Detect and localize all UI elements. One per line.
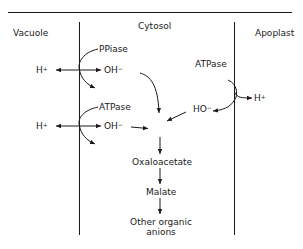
- oh2-to-center-arrow: [131, 127, 148, 129]
- h-ion-vacuole-1: H+: [36, 65, 48, 75]
- cytosol-label: Cytosol: [138, 21, 171, 31]
- atpase-plasma-label: ATPase: [195, 59, 227, 69]
- oh-ion-cytosol-2: OH−: [104, 121, 123, 131]
- ho-ion-cytosol: HO−: [193, 104, 212, 114]
- ppiase-pump-arrow: [79, 49, 98, 88]
- malate-label: Malate: [146, 187, 176, 197]
- h-ion-vacuole-2: H+: [36, 121, 48, 131]
- vacuole-label: Vacuole: [13, 28, 48, 38]
- oh1-to-center-arrow: [140, 73, 159, 113]
- ho-to-center-arrow: [167, 112, 186, 121]
- oxaloacetate-label: Oxaloacetate: [132, 157, 192, 167]
- atpase-plasma-pump-arrow-1: [213, 80, 237, 111]
- apoplast-label: Apoplast: [255, 28, 294, 38]
- atpase-tonoplast-label: ATPase: [99, 102, 131, 112]
- ppiase-label: PPiase: [99, 44, 128, 54]
- oh-ion-cytosol-1: OH−: [104, 65, 123, 75]
- other-anions-label: Other organic anions: [127, 217, 195, 237]
- h-ion-apoplast: H+: [254, 93, 266, 103]
